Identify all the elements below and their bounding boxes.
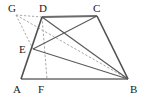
vertex-label-a: A (13, 83, 21, 95)
dashed-segment-gb (16, 15, 128, 79)
vertex-label-b: B (130, 83, 137, 95)
vertex-label-g: G (8, 2, 16, 14)
dashed-segment-df (42, 17, 47, 79)
vertex-label-d: D (39, 2, 47, 14)
geometry-figure: G D C E A F B (0, 0, 148, 97)
vertex-label-e: E (19, 43, 26, 55)
solid-segment-eb (33, 49, 128, 79)
solid-segment-ec (33, 16, 97, 49)
solid-segment-dc (42, 16, 97, 17)
geometry-diagram: G D C E A F B (0, 0, 148, 97)
vertex-label-f: F (38, 83, 44, 95)
solid-segment-db (42, 17, 128, 79)
solid-segment-cb (97, 16, 128, 79)
vertex-label-c: C (93, 2, 100, 14)
dashed-segment-group (16, 15, 128, 79)
